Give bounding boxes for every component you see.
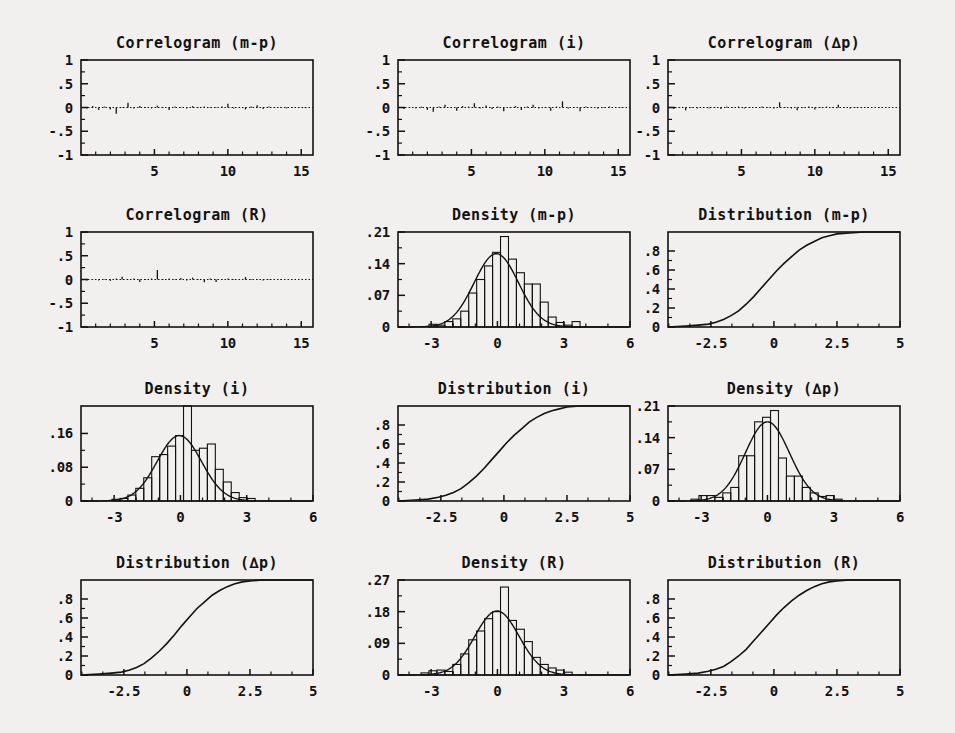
y-tick-label: .8 xyxy=(606,591,660,607)
x-tick-label: 2.5 xyxy=(802,683,872,699)
panel-distribution-r: Distribution (R)0.2.4.6.8-2.502.55 xyxy=(0,0,955,733)
y-tick-label: .6 xyxy=(606,610,660,626)
x-tick-label: 0 xyxy=(739,683,809,699)
y-tick-label: .2 xyxy=(606,648,660,664)
panel-title: Distribution (R) xyxy=(628,554,940,572)
x-tick-label: 5 xyxy=(865,683,935,699)
x-tick-label: -2.5 xyxy=(676,683,746,699)
y-tick-label: .4 xyxy=(606,629,660,645)
y-tick-label: 0 xyxy=(606,667,660,683)
figure-grid: Correlogram (m-p)-1-.50.5151015Correlogr… xyxy=(0,0,955,733)
plot-area xyxy=(667,579,901,676)
